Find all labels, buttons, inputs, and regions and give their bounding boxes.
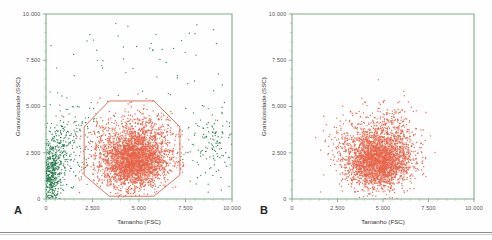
- panel-letter-b: B: [260, 204, 268, 216]
- y-axis-title: Granulosidade (SSC): [260, 77, 267, 136]
- scatter-panel-b: 02.5005.0007.50010.00002.5005.0007.50010…: [246, 0, 492, 240]
- x-tick-label: 2.500: [85, 205, 100, 211]
- data-points: [45, 23, 232, 200]
- scatter-plot-b: 02.5005.0007.50010.00002.5005.0007.50010…: [246, 0, 492, 240]
- scatter-panel-a: 02.5005.0007.50010.00002.5005.0007.50010…: [0, 0, 246, 240]
- y-tick-label: 0: [37, 196, 40, 202]
- y-tick-label: 10.000: [269, 11, 287, 17]
- figure-root: 02.5005.0007.50010.00002.5005.0007.50010…: [0, 0, 492, 240]
- x-axis-title: Tamanho (FSC): [361, 218, 405, 225]
- x-tick-label: 0: [44, 205, 47, 211]
- data-points: [315, 79, 436, 199]
- x-tick-label: 7.500: [421, 205, 436, 211]
- y-tick-label: 5.000: [272, 103, 287, 109]
- x-axis-title: Tamanho (FSC): [117, 218, 161, 225]
- y-tick-label: 5.000: [26, 103, 41, 109]
- x-tick-label: 0: [290, 205, 293, 211]
- figure-bottom-rule-shadow: [0, 234, 492, 235]
- panel-letter-a: A: [14, 204, 22, 216]
- x-tick-label: 10.000: [465, 205, 483, 211]
- y-axis-title: Granulosidade (SSC): [14, 77, 21, 136]
- y-tick-label: 0: [283, 196, 286, 202]
- y-tick-label: 2.500: [26, 150, 41, 156]
- x-tick-label: 5.000: [376, 205, 391, 211]
- series-cells: [315, 79, 436, 199]
- y-tick-label: 7.500: [272, 57, 287, 63]
- y-tick-label: 2.500: [272, 150, 287, 156]
- series-outliers: [47, 29, 229, 193]
- figure-bottom-rule: [0, 232, 492, 233]
- y-tick-label: 10.000: [23, 11, 41, 17]
- x-tick-label: 7.500: [178, 205, 193, 211]
- scatter-plot-a: 02.5005.0007.50010.00002.5005.0007.50010…: [0, 0, 246, 240]
- y-tick-label: 7.500: [26, 57, 41, 63]
- x-tick-label: 10.000: [223, 205, 241, 211]
- x-tick-label: 5.000: [132, 205, 147, 211]
- x-tick-label: 2.500: [330, 205, 345, 211]
